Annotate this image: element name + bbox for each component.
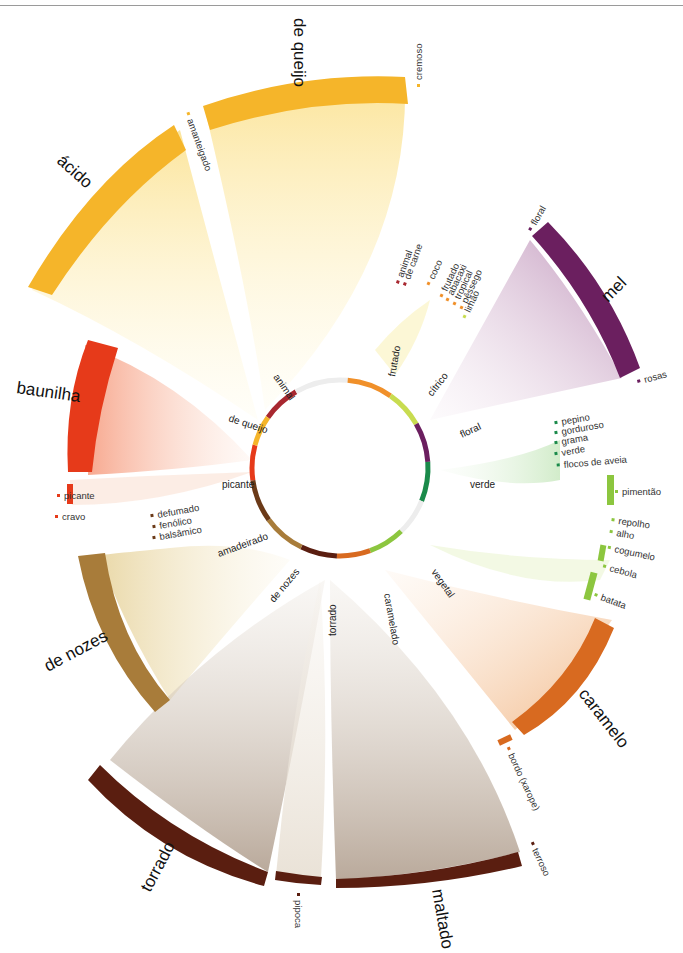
arc-bordo xyxy=(497,734,512,745)
small-label-text: cremoso xyxy=(413,44,424,80)
label-marker xyxy=(186,112,190,116)
label-marker xyxy=(554,452,557,455)
small-label-text: terroso xyxy=(530,846,552,877)
label-marker xyxy=(417,84,420,87)
label-marker xyxy=(297,893,300,896)
small-label-text: coco xyxy=(426,258,444,281)
ring-segment-verde xyxy=(422,462,428,501)
label-marker xyxy=(440,294,444,298)
ring-segment-amadeirado xyxy=(253,480,269,519)
small-label-text: pimentão xyxy=(622,486,661,497)
label-marker xyxy=(608,546,612,550)
small-label-picante: picante xyxy=(57,490,95,501)
small-label-text: pipoca xyxy=(293,900,304,929)
label-marker xyxy=(507,747,511,751)
ribbon-frutado xyxy=(375,300,430,375)
label-marker xyxy=(609,530,612,533)
small-label-text: cravo xyxy=(62,511,85,522)
big-label-de-nozes: de nozes xyxy=(41,626,111,675)
small-label-cravo: cravo xyxy=(55,511,85,522)
ring-label-torrado: torrado xyxy=(327,604,338,636)
small-label-pipoca: pipoca xyxy=(293,893,304,929)
ring-segment-de-nozes xyxy=(269,520,302,547)
small-label-rosas: rosas xyxy=(636,368,668,387)
ring-label-de-queijo: de queijo xyxy=(227,412,269,435)
label-marker xyxy=(57,494,60,497)
ring-segment-floral xyxy=(416,424,428,462)
small-label-alho: alho xyxy=(609,526,635,541)
small-label-bordo-xarope-: bordo (xarope) xyxy=(503,745,542,812)
label-marker xyxy=(594,593,598,597)
small-label-text: rosas xyxy=(643,368,669,385)
label-marker xyxy=(152,525,155,528)
small-label-text: picante xyxy=(64,490,95,501)
label-marker xyxy=(152,536,155,539)
ring-label-picante: picante xyxy=(222,479,255,490)
small-label-text: cebola xyxy=(608,562,639,580)
inner-ring xyxy=(252,380,428,556)
arc-cebola xyxy=(598,545,607,562)
ring-segment-gap-1 xyxy=(296,380,348,392)
ring-label-floral: floral xyxy=(458,421,482,440)
big-label-de-queijo: de queijo xyxy=(290,18,309,87)
label-marker xyxy=(427,282,431,286)
small-label-text: alho xyxy=(616,527,636,541)
label-marker xyxy=(150,514,153,517)
small-label-text: floral xyxy=(528,204,548,227)
label-marker xyxy=(557,463,560,466)
label-marker xyxy=(531,842,535,846)
label-marker xyxy=(554,421,557,424)
small-label-piment-o: pimentão xyxy=(615,486,661,497)
small-label-cremoso: cremoso xyxy=(413,44,424,87)
flavor-chord-diagram: de queijo ácido baunilha de nozes torrad… xyxy=(0,0,683,953)
small-label-text: cogumelo xyxy=(614,543,657,562)
ring-segment-caramelado xyxy=(337,551,370,556)
ring-label-verde: verde xyxy=(470,479,495,490)
big-label-torrado: torrado xyxy=(137,838,179,894)
ring-segment-vegetal xyxy=(370,531,401,550)
label-marker xyxy=(396,280,400,284)
label-marker xyxy=(453,302,457,306)
label-marker xyxy=(463,315,467,319)
arc-pimentao xyxy=(607,475,614,505)
small-label-terroso: terroso xyxy=(527,840,552,878)
label-marker xyxy=(446,298,450,302)
label-marker xyxy=(528,227,532,231)
label-marker xyxy=(615,490,618,493)
ring-segment-picante xyxy=(252,445,255,480)
label-marker xyxy=(554,431,557,434)
ring-segment-cítrico xyxy=(390,396,416,424)
big-label-caramelo: caramelo xyxy=(575,685,633,752)
big-label-baunilha: baunilha xyxy=(15,378,82,406)
ribbon-vegetal xyxy=(430,545,610,582)
label-marker xyxy=(554,441,557,444)
ring-segment-torrado xyxy=(301,547,337,556)
ribbon-verde xyxy=(440,440,560,483)
label-marker xyxy=(611,518,614,521)
label-marker xyxy=(55,515,58,518)
small-label-text: bordo (xarope) xyxy=(506,751,542,812)
small-label-text: batata xyxy=(599,592,628,612)
label-marker xyxy=(637,379,641,383)
ring-segment-frutado xyxy=(348,380,391,396)
small-label-batata: batata xyxy=(593,589,629,611)
small-label-cogumelo: cogumelo xyxy=(607,542,656,563)
big-label-acido: ácido xyxy=(53,151,96,192)
label-marker xyxy=(403,282,407,286)
ring-segment-gap-6 xyxy=(401,501,421,531)
big-label-maltado: maltado xyxy=(428,887,457,950)
